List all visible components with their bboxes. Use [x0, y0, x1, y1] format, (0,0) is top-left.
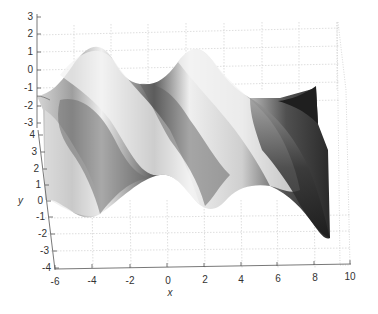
x-axis-title: x: [167, 287, 174, 298]
y-tick-label: 0: [37, 195, 43, 206]
z-axis: [37, 14, 41, 128]
y-tick-label: 2: [33, 163, 39, 174]
y-tick-label: -1: [36, 211, 45, 222]
x-tick-label: 2: [202, 274, 208, 285]
z-tick-label: -3: [24, 117, 33, 128]
z-tick-label: -1: [24, 82, 33, 93]
z-axis-labels: 3 2 1 0 -1 -2 -3: [24, 11, 33, 128]
x-axis-labels: -6 -4 -2 0 2 4 6 8 10: [51, 271, 356, 287]
x-axis: [55, 260, 351, 269]
x-tick-label: 6: [275, 273, 281, 284]
y-tick-label: -3: [40, 245, 49, 256]
y-axis-title: y: [17, 195, 24, 206]
x-tick-label: -6: [51, 276, 60, 287]
z-tick-label: 2: [27, 28, 33, 39]
z-tick-label: -2: [24, 100, 33, 111]
x-tick-label: -4: [88, 275, 97, 286]
surface: [37, 47, 330, 239]
surface-plot: 3 2 1 0 -1 -2 -3 4 3 2 1 0 -1 -2 -3 -4 y: [0, 0, 378, 314]
x-tick-label: 0: [165, 275, 171, 286]
x-tick-label: -2: [126, 275, 135, 286]
x-tick-label: 4: [238, 274, 244, 285]
y-tick-label: -4: [42, 262, 51, 273]
z-tick-label: 0: [27, 64, 33, 75]
y-tick-label: 1: [35, 179, 41, 190]
x-tick-label: 10: [344, 271, 356, 282]
z-tick-label: 1: [27, 46, 33, 57]
y-tick-label: 3: [31, 146, 37, 157]
y-tick-label: 4: [29, 129, 35, 140]
y-tick-label: -2: [38, 228, 47, 239]
right-wall: [337, 22, 350, 265]
x-tick-label: 8: [312, 272, 318, 283]
z-tick-label: 3: [27, 11, 33, 22]
